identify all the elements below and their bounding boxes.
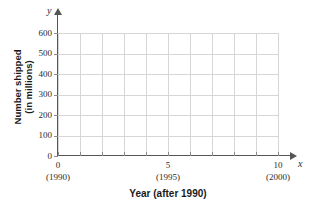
x-axis-arrow-icon (290, 152, 297, 160)
y-axis-arrow-icon (54, 8, 62, 15)
y-axis-title: Number shipped (in millions) (12, 17, 34, 157)
y-axis-title-line-1: Number shipped (12, 17, 23, 157)
y-axis-tick (54, 95, 58, 96)
x-axis-tick (124, 152, 125, 156)
x-axis-tick (190, 152, 191, 156)
y-axis-tick (54, 54, 58, 55)
y-axis-title-line-2: (in millions) (23, 17, 34, 157)
y-axis-variable-letter: y (47, 5, 51, 16)
x-axis-tick (256, 152, 257, 156)
grid-line-horizontal (58, 54, 278, 55)
x-axis-title: Year (after 1990) (58, 188, 278, 199)
x-axis-tick (58, 152, 59, 156)
x-axis-tick-label: 10 (258, 160, 298, 170)
grid-line-horizontal (58, 115, 278, 116)
y-axis-tick (54, 156, 58, 157)
x-axis-tick-sublabel: (2000) (254, 172, 302, 182)
grid-line-vertical (278, 33, 279, 156)
x-axis-tick (146, 152, 147, 156)
x-axis-tick-label: 5 (148, 160, 188, 170)
x-axis-tick-sublabel: (1995) (144, 172, 192, 182)
x-axis-variable-letter: x (298, 158, 302, 169)
grid-line-horizontal (58, 33, 278, 34)
x-axis-tick-sublabel: (1990) (34, 172, 82, 182)
x-axis-tick (80, 152, 81, 156)
x-axis-tick (102, 152, 103, 156)
grid-line-horizontal (58, 95, 278, 96)
y-axis-tick (54, 33, 58, 34)
x-axis-tick (168, 152, 169, 156)
y-axis-tick (54, 115, 58, 116)
x-axis-tick (278, 152, 279, 156)
x-axis-tick-label: 0 (38, 160, 78, 170)
chart-figure: 0100200300400500600 0(1990)5(1995)10(200… (0, 0, 312, 209)
x-axis-tick (234, 152, 235, 156)
grid-line-horizontal (58, 136, 278, 137)
x-axis-tick (212, 152, 213, 156)
grid-line-horizontal (58, 74, 278, 75)
plot-area (58, 33, 278, 156)
y-axis-tick (54, 74, 58, 75)
y-axis-tick (54, 136, 58, 137)
